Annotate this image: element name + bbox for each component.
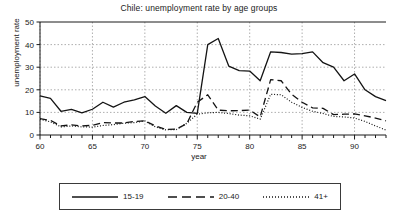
svg-text:85: 85 bbox=[298, 142, 307, 151]
svg-text:20: 20 bbox=[25, 86, 34, 95]
svg-text:90: 90 bbox=[350, 142, 359, 151]
legend-label-20-40: 20-40 bbox=[219, 192, 239, 201]
svg-text:65: 65 bbox=[88, 142, 97, 151]
data-series bbox=[40, 39, 386, 131]
svg-text:0: 0 bbox=[30, 131, 35, 140]
svg-text:50: 50 bbox=[25, 18, 34, 27]
svg-text:80: 80 bbox=[245, 142, 254, 151]
grid-lines bbox=[40, 22, 386, 135]
legend-label-41plus: 41+ bbox=[314, 192, 328, 201]
svg-text:30: 30 bbox=[25, 63, 34, 72]
axes bbox=[40, 22, 386, 135]
legend-label-15-19: 15-19 bbox=[123, 192, 143, 201]
svg-text:10: 10 bbox=[25, 108, 34, 117]
chart-legend: 15-19 20-40 41+ bbox=[59, 183, 341, 210]
legend-swatch-solid bbox=[72, 193, 118, 201]
svg-text:70: 70 bbox=[140, 142, 149, 151]
axis-tick-labels: 0102030405060657075808590 bbox=[25, 18, 359, 151]
legend-item-41plus: 41+ bbox=[263, 192, 328, 201]
svg-text:60: 60 bbox=[36, 142, 45, 151]
plot-area: 0102030405060657075808590 bbox=[0, 0, 398, 214]
svg-text:40: 40 bbox=[25, 41, 34, 50]
legend-item-20-40: 20-40 bbox=[168, 192, 239, 201]
x-axis-label: year bbox=[0, 152, 398, 161]
legend-swatch-dashed bbox=[168, 193, 214, 201]
legend-swatch-dotted bbox=[263, 193, 309, 201]
axis-ticks bbox=[37, 22, 387, 140]
svg-text:75: 75 bbox=[193, 142, 202, 151]
chart-figure: Chile: unemployment rate by age groups u… bbox=[0, 0, 398, 214]
legend-item-15-19: 15-19 bbox=[72, 192, 143, 201]
